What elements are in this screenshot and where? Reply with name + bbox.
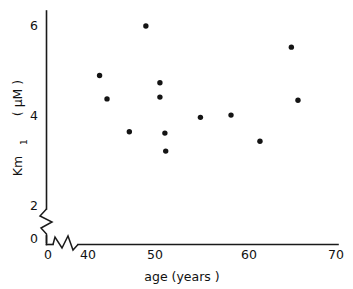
x-axis-break-icon bbox=[53, 236, 78, 250]
data-point bbox=[295, 98, 300, 103]
plot-canvas: 6 4 2 0 0 40 50 60 70 age (years ) ( µM … bbox=[0, 0, 353, 289]
data-point bbox=[162, 130, 167, 135]
x-axis-title: age (years ) bbox=[144, 269, 219, 284]
data-point bbox=[157, 94, 162, 99]
data-point bbox=[198, 115, 203, 120]
data-point bbox=[163, 148, 168, 153]
y-tick-label-2: 2 bbox=[30, 198, 38, 213]
y-axis-group bbox=[40, 11, 52, 245]
data-point bbox=[127, 129, 132, 134]
data-point bbox=[97, 73, 102, 78]
y-tick-label-4: 4 bbox=[30, 108, 38, 123]
x-tick-label-50: 50 bbox=[147, 247, 163, 262]
x-tick-labels: 0 40 50 60 70 bbox=[44, 247, 344, 262]
data-point bbox=[228, 112, 233, 117]
data-point bbox=[143, 23, 148, 28]
x-tick-label-40: 40 bbox=[80, 247, 96, 262]
y-axis-title-main: Km bbox=[10, 156, 25, 176]
y-tick-labels: 6 4 2 0 bbox=[30, 18, 38, 246]
y-axis-title-subscript: 1 bbox=[19, 139, 29, 145]
data-points-layer bbox=[97, 23, 301, 154]
x-tick-label-70: 70 bbox=[328, 247, 344, 262]
y-tick-label-6: 6 bbox=[30, 18, 38, 33]
y-axis-title-group: ( µM ) Km 1 bbox=[10, 80, 29, 176]
x-tick-label-0: 0 bbox=[44, 247, 52, 262]
data-point bbox=[257, 139, 262, 144]
x-tick-label-60: 60 bbox=[241, 247, 257, 262]
y-tick-label-0: 0 bbox=[30, 231, 38, 246]
y-axis-title-units: ( µM ) bbox=[10, 80, 25, 116]
data-point bbox=[289, 44, 294, 49]
scatter-plot-figure: 6 4 2 0 0 40 50 60 70 age (years ) ( µM … bbox=[0, 0, 353, 289]
data-point bbox=[157, 80, 162, 85]
data-point bbox=[104, 96, 109, 101]
